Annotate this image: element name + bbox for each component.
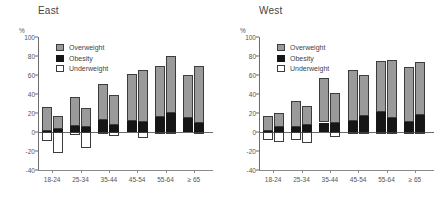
bar-segment-overweight	[376, 61, 386, 112]
legend-label-obesity: Obesity	[69, 55, 93, 62]
x-tick-label: 55-64	[157, 176, 174, 183]
bar-segment-underweight	[138, 132, 148, 138]
x-tick-label: 35-44	[101, 176, 118, 183]
legend-label-underweight: Underweight	[69, 65, 108, 72]
bar-segment-underweight	[415, 132, 425, 134]
x-tick-label: 25-34	[293, 176, 310, 183]
x-tick-label: 25-34	[72, 176, 89, 183]
y-tick-mark	[35, 37, 38, 38]
bar-segment-underweight	[404, 132, 414, 134]
bar-segment-underweight	[263, 132, 273, 140]
bar-segment-overweight	[263, 116, 273, 131]
panel-title-west: West	[259, 5, 282, 16]
bar	[359, 37, 369, 170]
bar-segment-underweight	[291, 132, 301, 140]
bar-segment-obesity	[319, 123, 329, 133]
y-tick-mark	[256, 151, 259, 152]
bar-segment-obesity	[98, 120, 108, 132]
bar-segment-overweight	[274, 113, 284, 127]
x-tick-mark	[194, 170, 195, 173]
x-tick-mark	[166, 170, 167, 173]
bar-segment-obesity	[348, 121, 358, 132]
bar	[387, 37, 397, 170]
bar-segment-overweight	[166, 56, 176, 113]
bar-segment-overweight	[348, 70, 358, 120]
bar-segment-underweight	[155, 132, 165, 134]
bar-segment-underweight	[109, 132, 119, 136]
x-tick-label: 45-54	[129, 176, 146, 183]
bar	[194, 37, 204, 170]
x-tick-mark	[330, 170, 331, 173]
bar-segment-obesity	[155, 117, 165, 132]
y-tick-mark	[256, 37, 259, 38]
bar-segment-overweight	[155, 66, 165, 116]
y-tick-mark	[35, 170, 38, 171]
legend-swatch-overweight-icon	[277, 44, 285, 51]
bar	[376, 37, 386, 170]
bar	[166, 37, 176, 170]
y-tick-mark	[256, 170, 259, 171]
bar-segment-overweight	[81, 108, 91, 127]
bar	[415, 37, 425, 170]
bar-segment-underweight	[330, 132, 340, 137]
panel-title-east: East	[38, 5, 59, 16]
bar-segment-overweight	[183, 75, 193, 118]
x-tick-label: 18-24	[265, 176, 282, 183]
bar	[109, 37, 119, 170]
x-axis-line-west	[259, 170, 434, 171]
bar	[404, 37, 414, 170]
bar-segment-overweight	[98, 84, 108, 120]
bar-segment-obesity	[415, 115, 425, 132]
x-tick-mark	[109, 170, 110, 173]
legend-swatch-obesity-icon	[277, 55, 285, 62]
bar-segment-overweight	[415, 62, 425, 115]
bar	[348, 37, 358, 170]
y-tick-mark	[256, 94, 259, 95]
bar-segment-overweight	[138, 70, 148, 121]
x-tick-label: 18-24	[44, 176, 61, 183]
bar	[330, 37, 340, 170]
x-tick-label: 35-44	[322, 176, 339, 183]
legend-swatch-overweight-icon	[56, 44, 64, 51]
legend-west: Overweight Obesity Underweight	[277, 44, 329, 76]
y-tick-mark	[35, 113, 38, 114]
x-tick-mark	[358, 170, 359, 173]
legend-item-obesity: Obesity	[56, 55, 108, 62]
bar-segment-obesity	[387, 118, 397, 132]
bar	[138, 37, 148, 170]
bar-segment-overweight	[194, 66, 204, 123]
bar-segment-overweight	[291, 101, 301, 128]
y-tick-mark	[35, 94, 38, 95]
legend-label-underweight: Underweight	[290, 65, 329, 72]
y-tick-mark	[35, 151, 38, 152]
x-tick-label: 55-64	[378, 176, 395, 183]
bar-segment-underweight	[53, 132, 63, 153]
bar-segment-overweight	[359, 75, 369, 116]
y-tick-mark	[256, 75, 259, 76]
x-tick-mark	[302, 170, 303, 173]
bar-segment-obesity	[302, 125, 312, 132]
legend-label-obesity: Obesity	[290, 55, 314, 62]
x-tick-mark	[387, 170, 388, 173]
bar-segment-obesity	[166, 113, 176, 132]
bar-segment-underweight	[70, 132, 80, 135]
bar-segment-overweight	[53, 116, 63, 129]
x-tick-mark	[52, 170, 53, 173]
bar-segment-obesity	[376, 112, 386, 132]
bar	[263, 37, 273, 170]
chart-panel-east: East % -40-20020406080100 18-2425-3435-4…	[0, 0, 221, 205]
y-tick-mark	[256, 132, 259, 133]
bar-segment-underweight	[166, 132, 176, 134]
legend-swatch-underweight-icon	[277, 65, 285, 72]
legend-item-underweight: Underweight	[56, 65, 108, 72]
bar-segment-overweight	[330, 93, 340, 123]
bar-segment-underweight	[302, 132, 312, 143]
bar-segment-overweight	[302, 106, 312, 125]
legend-label-overweight: Overweight	[69, 44, 104, 51]
chart-panel-west: West % -40-20020406080100 18-2425-3435-4…	[221, 0, 442, 205]
legend-item-overweight: Overweight	[56, 44, 108, 51]
x-tick-mark	[137, 170, 138, 173]
bar-segment-obesity	[109, 125, 119, 132]
y-tick-mark	[256, 56, 259, 57]
bar-segment-obesity	[127, 121, 137, 132]
